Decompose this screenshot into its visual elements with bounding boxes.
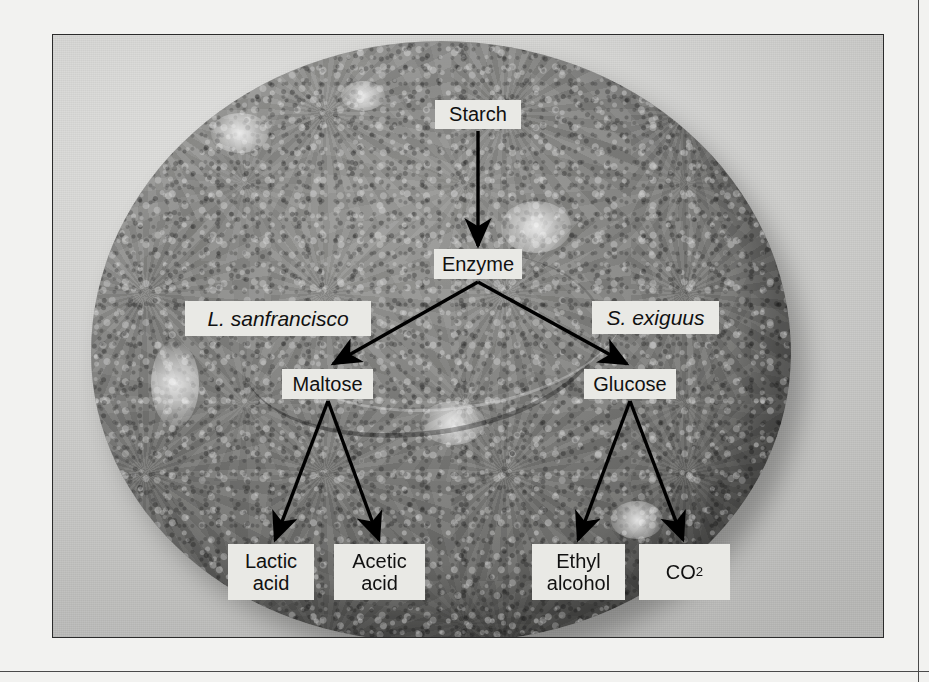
node-co2: CO2 xyxy=(639,544,730,600)
flour-blotch xyxy=(611,501,663,539)
node-lactic-acid: Lactic acid xyxy=(228,544,314,600)
node-enzyme: Enzyme xyxy=(434,249,522,279)
figure-page: StarchEnzymeL. sanfranciscoS. exiguusMal… xyxy=(0,0,929,682)
flour-blotch xyxy=(421,401,485,445)
node-acetic-acid: Acetic acid xyxy=(334,544,425,600)
flour-blotch xyxy=(151,341,199,427)
node-s-exiguus: S. exiguus xyxy=(592,301,719,334)
node-label: CO xyxy=(666,561,696,583)
node-maltose: Maltose xyxy=(282,369,373,399)
page-rule-bottom xyxy=(0,671,929,672)
crust-score-mark xyxy=(231,230,614,458)
flour-blotch xyxy=(341,81,385,111)
node-l-sanfrancisco: L. sanfrancisco xyxy=(185,301,371,336)
node-glucose: Glucose xyxy=(584,369,676,399)
node-ethyl-alcohol: Ethyl alcohol xyxy=(532,544,625,600)
page-rule-right xyxy=(918,0,919,682)
node-starch: Starch xyxy=(435,100,521,129)
flour-blotch xyxy=(501,201,571,253)
flour-blotch xyxy=(211,113,269,153)
node-label-subscript: 2 xyxy=(696,565,703,580)
